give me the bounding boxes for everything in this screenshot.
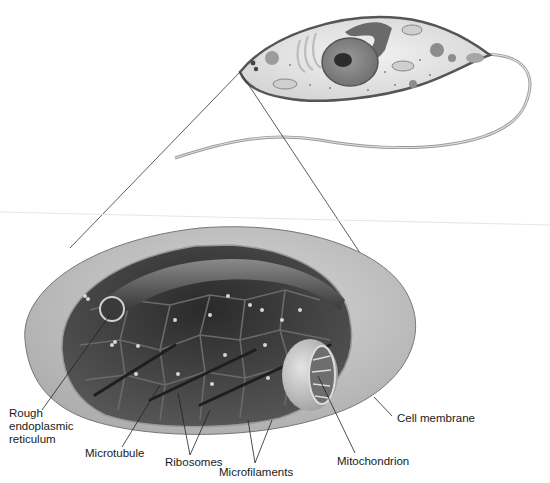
rough-er-tube-opening [100, 297, 124, 321]
label-microfilaments: Microfilaments [219, 466, 293, 479]
nucleolus [334, 53, 352, 67]
label-microtubule: Microtubule [85, 447, 144, 460]
label-cell-membrane: Cell membrane [397, 412, 475, 425]
cell-diagram [0, 0, 550, 483]
whole-cell [175, 17, 530, 158]
cutaway-cell [25, 227, 416, 435]
label-rough-endoplasmic-reticulum: Rough endoplasmic reticulum [9, 407, 74, 446]
label-ribosomes: Ribosomes [165, 456, 223, 469]
label-mitochondrion: Mitochondrion [337, 455, 409, 468]
